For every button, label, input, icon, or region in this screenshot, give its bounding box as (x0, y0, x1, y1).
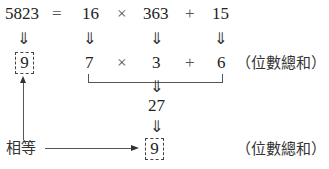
vertical-connector (23, 80, 24, 140)
down-arrow-icon: ⇓ (150, 30, 163, 48)
equal-label: 相等 (6, 138, 36, 158)
times-sign: × (117, 4, 127, 24)
divisor-digit-sum: 7 (85, 53, 94, 73)
bracket-left (88, 74, 89, 82)
equals-sign: = (52, 4, 62, 24)
up-arrowhead-icon (20, 76, 26, 83)
bracket-right (222, 74, 223, 82)
digit-sum-note: （位數總和） (236, 53, 326, 73)
final-digit-sum-box: 9 (145, 138, 164, 160)
combined-note: （位數總和） (236, 139, 326, 159)
quotient-digit-sum: 3 (152, 53, 161, 73)
plus-sign: + (185, 4, 195, 24)
down-arrow-icon: ⇓ (214, 30, 227, 48)
down-arrow-icon: ⇓ (17, 30, 30, 48)
plus-sign: + (185, 53, 195, 73)
right-arrowhead-icon (131, 145, 139, 151)
down-arrow-icon: ⇓ (150, 78, 163, 96)
remainder-digit-sum: 6 (217, 53, 226, 73)
down-arrow-icon: ⇓ (150, 118, 163, 136)
down-arrow-icon: ⇓ (83, 30, 96, 48)
divisor: 16 (82, 4, 99, 24)
remainder: 15 (212, 4, 229, 24)
horizontal-connector (45, 148, 131, 149)
times-sign: × (117, 53, 127, 73)
dividend: 5823 (5, 4, 39, 24)
dividend-digit-sum-box: 9 (15, 52, 34, 74)
quotient: 363 (143, 4, 169, 24)
combined-value: 27 (148, 96, 165, 116)
